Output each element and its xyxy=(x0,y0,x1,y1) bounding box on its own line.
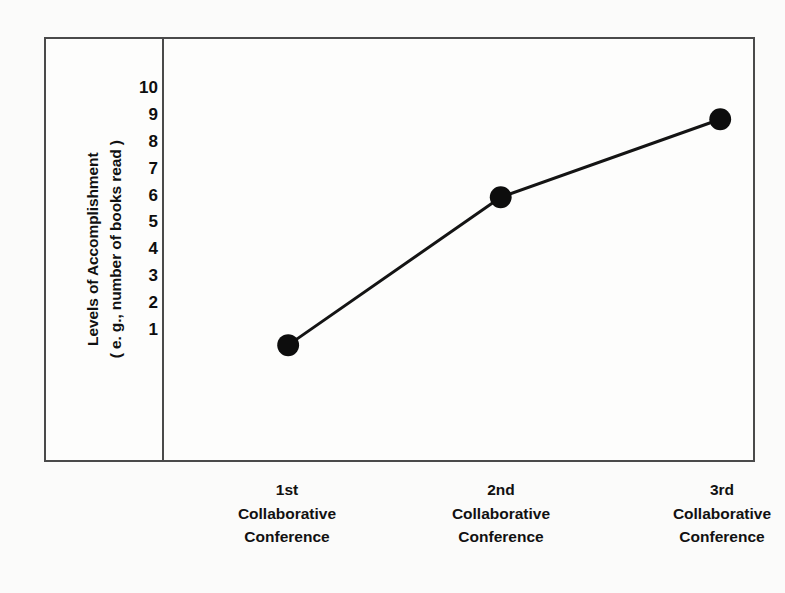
x-tick-label-2: 2ndCollaborativeConference xyxy=(401,478,601,549)
x-tick-label-1-line-2: Collaborative xyxy=(187,502,387,526)
y-tick-label-9: 9 xyxy=(108,105,158,122)
y-tick-label-7: 7 xyxy=(108,159,158,176)
chart-plot-frame: Levels of Accomplishment ( e. g., number… xyxy=(44,37,755,462)
series-line xyxy=(288,119,720,345)
x-axis-tick-labels: 1stCollaborativeConference2ndCollaborati… xyxy=(160,478,755,558)
plot-area xyxy=(164,39,753,460)
y-tick-label-6: 6 xyxy=(108,186,158,203)
data-point-3 xyxy=(709,108,731,130)
chart-figure: Levels of Accomplishment ( e. g., number… xyxy=(0,0,785,593)
x-tick-label-2-line-1: 2nd xyxy=(401,478,601,502)
y-tick-label-2: 2 xyxy=(108,294,158,311)
x-tick-label-2-line-3: Conference xyxy=(401,525,601,549)
x-tick-label-2-line-2: Collaborative xyxy=(401,502,601,526)
line-chart-svg xyxy=(164,39,753,460)
y-tick-label-1: 1 xyxy=(108,321,158,338)
y-tick-label-4: 4 xyxy=(108,240,158,257)
x-tick-label-1-line-3: Conference xyxy=(187,525,387,549)
x-tick-label-3-line-3: Conference xyxy=(622,525,785,549)
y-tick-label-5: 5 xyxy=(108,213,158,230)
x-tick-label-3-line-2: Collaborative xyxy=(622,502,785,526)
x-tick-label-1: 1stCollaborativeConference xyxy=(187,478,387,549)
y-axis-title-line-1: Levels of Accomplishment xyxy=(81,140,104,358)
data-point-2 xyxy=(490,186,512,208)
x-tick-label-1-line-1: 1st xyxy=(187,478,387,502)
y-tick-label-3: 3 xyxy=(108,267,158,284)
x-tick-label-3: 3rdCollaborativeConference xyxy=(622,478,785,549)
y-tick-label-10: 10 xyxy=(108,78,158,95)
y-axis-tick-labels: 10987654321 xyxy=(108,39,158,460)
data-point-1 xyxy=(277,334,299,356)
y-tick-label-8: 8 xyxy=(108,132,158,149)
x-tick-label-3-line-1: 3rd xyxy=(622,478,785,502)
